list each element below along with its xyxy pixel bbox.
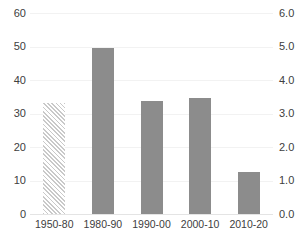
left-axis-tick-label: 60 <box>0 8 26 19</box>
bar-1990-00 <box>141 101 163 214</box>
x-axis-tick-label: 1990-00 <box>127 219 176 231</box>
chart-title <box>0 0 308 3</box>
left-axis-tick-label: 30 <box>0 108 26 119</box>
left-axis-tick-label: 20 <box>0 142 26 153</box>
right-axis-tick-label: 3.0 <box>279 108 308 119</box>
right-axis-tick-label: 4.0 <box>279 75 308 86</box>
left-axis-tick-label: 10 <box>0 175 26 186</box>
x-axis-tick-label: 1950-80 <box>30 219 79 231</box>
x-axis-tick-label: 1980-90 <box>79 219 128 231</box>
bar-2000-10 <box>189 98 211 214</box>
left-axis-tick-label: 40 <box>0 75 26 86</box>
right-axis-tick-label: 1.0 <box>279 175 308 186</box>
bar-chart: 0102030405060 0.01.02.03.04.05.06.0 1950… <box>0 0 308 239</box>
x-axis-tick-label: 2000-10 <box>176 219 225 231</box>
x-axis-categories: 1950-801980-901990-002000-102010-20 <box>30 219 273 237</box>
right-axis-tick-label: 5.0 <box>279 41 308 52</box>
left-axis-tick-label: 0 <box>0 209 26 220</box>
right-axis-tick-label: 0.0 <box>279 209 308 220</box>
left-axis-tick-label: 50 <box>0 41 26 52</box>
right-axis-tick-label: 2.0 <box>279 142 308 153</box>
x-axis-tick-label: 2010-20 <box>224 219 273 231</box>
bar-1950-80 <box>43 103 65 214</box>
gridline <box>30 214 273 215</box>
plot-area <box>30 13 273 214</box>
bar-1980-90 <box>92 48 114 214</box>
right-axis-tick-label: 6.0 <box>279 8 308 19</box>
bar-2010-20 <box>238 172 260 214</box>
